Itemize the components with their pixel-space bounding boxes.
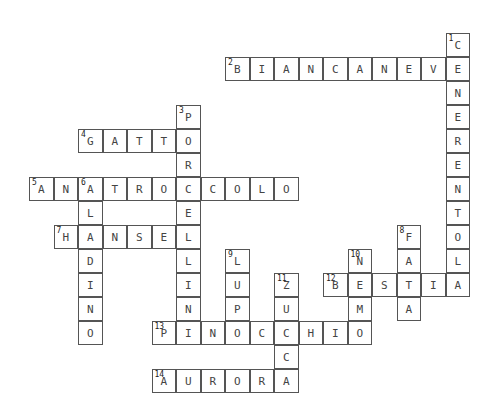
crossword-cell[interactable]: A14 (152, 369, 177, 393)
crossword-cell[interactable]: G4 (78, 129, 103, 153)
crossword-cell[interactable]: R (250, 369, 275, 393)
crossword-cell[interactable]: U (176, 369, 201, 393)
crossword-cell[interactable]: R (127, 177, 152, 201)
crossword-cell[interactable]: C1 (446, 33, 471, 57)
cell-letter: T (454, 207, 461, 220)
crossword-cell[interactable]: R (176, 153, 201, 177)
crossword-cell[interactable]: S (372, 273, 397, 297)
crossword-cell[interactable]: C (201, 177, 226, 201)
crossword-cell[interactable]: N (103, 225, 128, 249)
crossword-cell[interactable]: B12 (323, 273, 348, 297)
crossword-cell[interactable]: H (299, 321, 324, 345)
crossword-cell[interactable]: O (274, 177, 299, 201)
crossword-cell[interactable]: T (397, 273, 422, 297)
crossword-cell[interactable]: P13 (152, 321, 177, 345)
cell-letter: D (87, 255, 94, 268)
crossword-cell[interactable]: A (274, 57, 299, 81)
crossword-cell[interactable]: P (225, 297, 250, 321)
crossword-cell[interactable]: N10 (348, 249, 373, 273)
crossword-cell[interactable]: O (225, 177, 250, 201)
crossword-cell[interactable]: A (397, 297, 422, 321)
crossword-cell[interactable]: I (323, 321, 348, 345)
crossword-cell[interactable]: R (446, 129, 471, 153)
crossword-cell[interactable]: N (201, 321, 226, 345)
crossword-cell[interactable]: T (152, 129, 177, 153)
crossword-cell[interactable]: E (446, 57, 471, 81)
cell-letter: N (454, 87, 461, 100)
crossword-cell[interactable]: U (274, 297, 299, 321)
crossword-cell[interactable]: N (299, 57, 324, 81)
crossword-cell[interactable]: H7 (54, 225, 79, 249)
cell-letter: L (87, 207, 94, 220)
cell-letter: C (454, 39, 461, 52)
crossword-cell[interactable]: V (421, 57, 446, 81)
cell-letter: B (234, 63, 241, 76)
crossword-cell[interactable]: N (78, 297, 103, 321)
crossword-cell[interactable]: L (446, 249, 471, 273)
crossword-cell[interactable]: A (274, 369, 299, 393)
crossword-cell[interactable]: U (225, 273, 250, 297)
crossword-cell[interactable]: I (78, 273, 103, 297)
crossword-cell[interactable]: B2 (225, 57, 250, 81)
crossword-cell[interactable]: A6 (78, 177, 103, 201)
crossword-cell[interactable]: A (397, 249, 422, 273)
crossword-cell[interactable]: Z11 (274, 273, 299, 297)
crossword-cell[interactable]: F8 (397, 225, 422, 249)
crossword-cell[interactable]: S (127, 225, 152, 249)
crossword-cell[interactable]: E (446, 153, 471, 177)
crossword-cell[interactable]: I (176, 321, 201, 345)
crossword-cell[interactable]: L (250, 177, 275, 201)
crossword-cell[interactable]: O (348, 321, 373, 345)
crossword-cell[interactable]: N (176, 297, 201, 321)
crossword-cell[interactable]: A5 (29, 177, 54, 201)
cell-letter: U (283, 303, 290, 316)
crossword-cell[interactable]: E (176, 201, 201, 225)
cell-letter: T (136, 135, 143, 148)
crossword-cell[interactable]: C (250, 321, 275, 345)
crossword-cell[interactable]: C (274, 345, 299, 369)
crossword-cell[interactable]: L (176, 225, 201, 249)
crossword-cell[interactable]: C (176, 177, 201, 201)
crossword-cell[interactable]: I (421, 273, 446, 297)
cell-letter: U (234, 279, 241, 292)
crossword-cell[interactable]: T (103, 177, 128, 201)
crossword-cell[interactable]: O (225, 321, 250, 345)
crossword-cell[interactable]: M (348, 297, 373, 321)
crossword-cell[interactable]: N (446, 177, 471, 201)
crossword-cell[interactable]: P3 (176, 105, 201, 129)
crossword-cell[interactable]: A (446, 273, 471, 297)
crossword-cell[interactable]: L (78, 201, 103, 225)
crossword-cell[interactable]: I (250, 57, 275, 81)
crossword-cell[interactable]: E (152, 225, 177, 249)
crossword-cell[interactable]: L9 (225, 249, 250, 273)
crossword-cell[interactable]: I (176, 273, 201, 297)
crossword-cell[interactable]: O (446, 225, 471, 249)
crossword-cell[interactable]: O (152, 177, 177, 201)
cell-letter: E (454, 63, 461, 76)
crossword-cell[interactable]: L (176, 249, 201, 273)
crossword-cell[interactable]: C (323, 57, 348, 81)
crossword-cell[interactable]: E (397, 57, 422, 81)
crossword-cell[interactable]: N (54, 177, 79, 201)
crossword-cell[interactable]: O (225, 369, 250, 393)
crossword-cell[interactable]: A (78, 225, 103, 249)
crossword-cell[interactable]: R (201, 369, 226, 393)
crossword-cell[interactable]: O (176, 129, 201, 153)
clue-number: 14 (155, 371, 165, 379)
cell-letter: A (87, 183, 94, 196)
crossword-cell[interactable]: D (78, 249, 103, 273)
clue-number: 7 (57, 227, 62, 235)
crossword-cell[interactable]: A (348, 57, 373, 81)
crossword-cell[interactable]: E (446, 105, 471, 129)
crossword-cell[interactable]: N (446, 81, 471, 105)
cell-letter: C (185, 183, 192, 196)
cell-letter: O (234, 183, 241, 196)
crossword-cell[interactable]: C (274, 321, 299, 345)
crossword-cell[interactable]: E (348, 273, 373, 297)
crossword-cell[interactable]: O (78, 321, 103, 345)
crossword-cell[interactable]: T (446, 201, 471, 225)
cell-letter: O (234, 327, 241, 340)
crossword-cell[interactable]: T (127, 129, 152, 153)
crossword-cell[interactable]: A (103, 129, 128, 153)
crossword-cell[interactable]: N (372, 57, 397, 81)
